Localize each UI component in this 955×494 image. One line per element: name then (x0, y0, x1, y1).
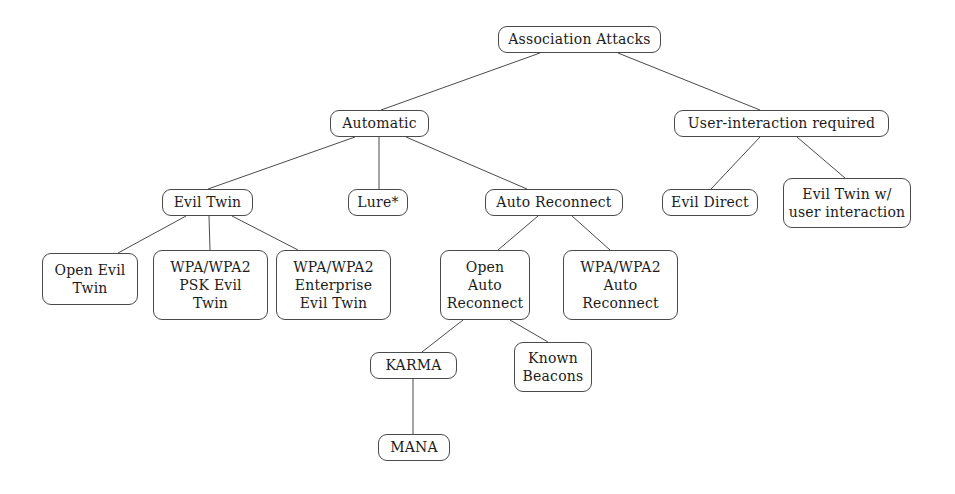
node-label-line: WPA/WPA2 (580, 258, 661, 276)
node-label-line: WPA/WPA2 (170, 258, 251, 276)
node-open-auto-reconnect[interactable]: OpenAutoReconnect (440, 250, 530, 320)
node-label-line: user interaction (789, 203, 906, 221)
node-association-attacks[interactable]: Association Attacks (498, 26, 661, 53)
association-attacks-taxonomy-diagram: Association AttacksAutomaticUser-interac… (0, 0, 955, 494)
node-label-line: Evil Direct (671, 194, 749, 211)
node-label-line: Evil Twin (300, 294, 368, 312)
node-layer: Association AttacksAutomaticUser-interac… (0, 0, 955, 494)
node-label-line: Auto Reconnect (496, 194, 611, 211)
node-wpa-wpa2-auto-reconnect[interactable]: WPA/WPA2AutoReconnect (563, 250, 678, 320)
node-automatic[interactable]: Automatic (330, 110, 429, 137)
node-wpa-wpa2-enterprise-evil-twin[interactable]: WPA/WPA2EnterpriseEvil Twin (276, 250, 391, 320)
node-label-line: Open (466, 258, 505, 276)
node-label-line: Reconnect (447, 294, 524, 312)
node-label-line: Lure* (357, 194, 398, 211)
node-user-interaction-required[interactable]: User-interaction required (674, 110, 889, 137)
node-karma[interactable]: KARMA (370, 352, 457, 379)
node-label-line: Twin (72, 279, 107, 297)
node-label-line: Beacons (523, 367, 584, 385)
node-label-line: Auto (468, 276, 502, 294)
node-open-evil-twin[interactable]: Open EvilTwin (42, 253, 138, 305)
node-label-line: PSK Evil (179, 276, 242, 294)
node-label-line: User-interaction required (688, 115, 875, 132)
node-label-line: Association Attacks (508, 31, 650, 48)
node-lure[interactable]: Lure* (348, 189, 408, 216)
node-label-line: Reconnect (582, 294, 659, 312)
node-label-line: Auto (604, 276, 638, 294)
node-label-line: Open Evil (54, 261, 125, 279)
node-label-line: MANA (390, 439, 438, 456)
node-label-line: Known (528, 349, 578, 367)
node-label-line: Enterprise (295, 276, 372, 294)
node-label-line: Twin (193, 294, 228, 312)
node-label-line: Evil Twin (174, 194, 242, 211)
node-label-line: WPA/WPA2 (293, 258, 374, 276)
node-wpa-wpa2-psk-evil-twin[interactable]: WPA/WPA2PSK EvilTwin (153, 250, 268, 320)
node-mana[interactable]: MANA (378, 434, 450, 461)
node-label-line: Evil Twin w/ (802, 185, 891, 203)
node-evil-twin-with-user-interaction[interactable]: Evil Twin w/user interaction (783, 178, 911, 228)
node-evil-direct[interactable]: Evil Direct (662, 189, 758, 216)
node-evil-twin[interactable]: Evil Twin (162, 189, 253, 216)
node-known-beacons[interactable]: KnownBeacons (514, 342, 592, 392)
node-auto-reconnect[interactable]: Auto Reconnect (485, 189, 623, 216)
node-label-line: KARMA (386, 357, 442, 374)
node-label-line: Automatic (342, 115, 417, 132)
